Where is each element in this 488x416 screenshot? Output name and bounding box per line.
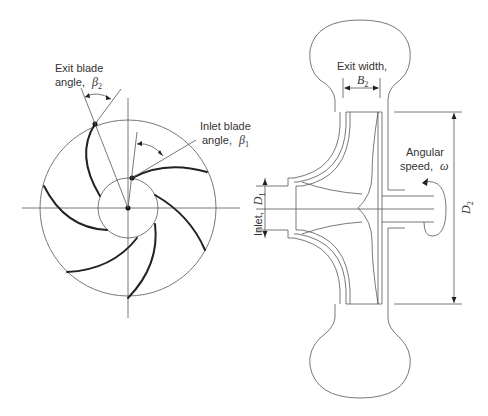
- blade: [132, 167, 207, 178]
- exit-width-label: Exit width,: [337, 60, 387, 72]
- outer-diameter-label: D2: [459, 201, 475, 215]
- impeller-side-section: Exit width, B2 Inlet, D1 D2 Angular spee…: [248, 20, 475, 398]
- impeller-front-view: Exit blade angle, β2 Inlet blade angle, …: [22, 62, 251, 318]
- inlet-radial-line: [128, 132, 137, 208]
- inlet-diameter-label: Inlet, D1: [248, 192, 267, 236]
- arrow-head-icon: [373, 86, 379, 91]
- blade: [67, 238, 137, 272]
- exit-width-symbol: B2: [357, 73, 368, 89]
- arrow-head-icon: [85, 93, 90, 98]
- shroud-outer-bottom: [256, 230, 340, 304]
- inlet-blade-angle-label-2: angle, β1: [202, 133, 249, 149]
- arrow-head-icon: [344, 86, 350, 91]
- shroud-outer-top: [256, 112, 340, 186]
- inlet-blade-angle-label: Inlet blade: [200, 120, 251, 132]
- volute-top: [310, 20, 411, 190]
- arrow-head-icon: [452, 297, 457, 303]
- exit-blade-angle-label-2: angle, β2: [55, 75, 102, 91]
- angular-speed-label-2: speed, ω: [400, 156, 449, 173]
- shroud-inner-top: [296, 112, 350, 230]
- shroud-mid-bottom: [294, 234, 346, 304]
- volute-bottom: [310, 228, 411, 398]
- arrow-head-icon: [452, 113, 457, 119]
- angular-speed-label: Angular: [406, 146, 444, 158]
- blade: [128, 224, 156, 298]
- arrow-head-icon: [263, 179, 268, 185]
- blade: [155, 195, 205, 250]
- blade: [86, 124, 100, 196]
- hub-profile: [358, 112, 378, 304]
- rotation-arrow-icon: [422, 178, 428, 186]
- arrow-head-icon: [137, 141, 142, 146]
- pump-impeller-diagram: Exit blade angle, β2 Inlet blade angle, …: [0, 0, 488, 416]
- arrow-head-icon: [106, 95, 111, 100]
- shroud-mid-top: [294, 112, 346, 182]
- inlet-angle-arc: [137, 144, 163, 156]
- exit-blade-angle-label: Exit blade: [55, 62, 103, 74]
